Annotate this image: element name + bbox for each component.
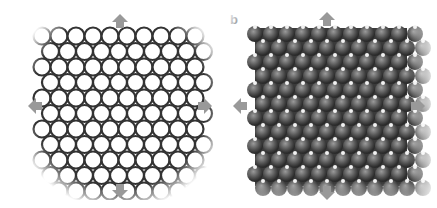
panel-a-honeycomb [20,0,220,200]
panel-b-atomic-lattice [225,0,435,208]
